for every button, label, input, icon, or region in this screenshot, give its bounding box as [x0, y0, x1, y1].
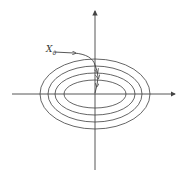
trajectory-segment-5: [97, 77, 98, 85]
contour-diagram: [0, 0, 184, 180]
trajectory: [54, 52, 98, 93]
start-label-subscript: 0: [52, 49, 56, 56]
trajectory-segment-1: [54, 52, 74, 53]
start-point-label: X0: [46, 44, 56, 56]
trajectory-segment-4: [97, 71, 98, 77]
trajectory-segment-2: [74, 53, 95, 65]
